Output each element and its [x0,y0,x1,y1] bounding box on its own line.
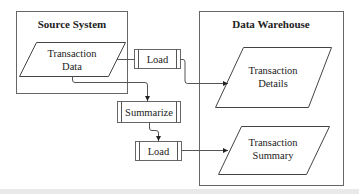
load-2-label: Load [148,146,170,157]
transaction-data-label-line1: Transaction [47,48,97,59]
summarize-process[interactable]: Summarize [118,102,181,123]
load-process-2[interactable]: Load [136,142,182,161]
transaction-details-label-line2: Details [258,78,288,89]
transaction-details-label-line1: Transaction [248,65,298,76]
edge-summarize-to-load-2 [150,123,159,142]
transaction-summary-label-line2: Summary [253,150,295,161]
data-warehouse-title: Data Warehouse [232,18,310,30]
load-process-1[interactable]: Load [135,50,181,69]
load-1-label: Load [147,54,169,65]
transaction-summary-label-line1: Transaction [248,137,298,148]
transaction-data-store[interactable]: Transaction Data [20,43,126,77]
transaction-data-label-line2: Data [62,61,82,72]
etl-diagram: Source System Data Warehouse Transaction… [0,0,359,194]
bottom-border [0,189,359,194]
summarize-label: Summarize [125,107,173,118]
source-system-title: Source System [38,18,107,30]
